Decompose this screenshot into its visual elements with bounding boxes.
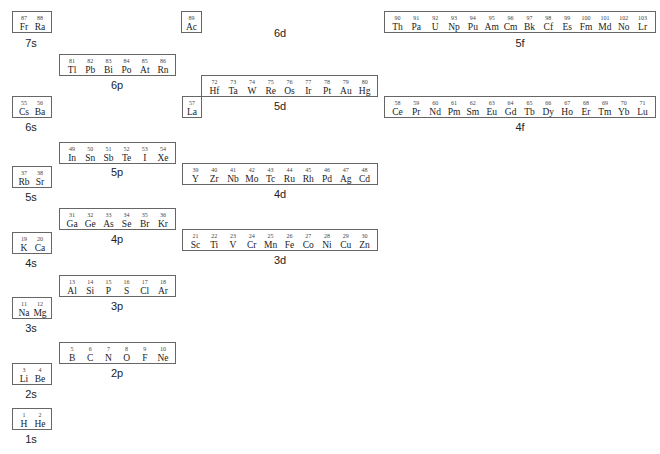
element-cell: 88Ra — [32, 12, 48, 32]
atomic-number: 13 — [69, 279, 75, 286]
atomic-number: 26 — [286, 233, 292, 240]
element-symbol: Rn — [157, 65, 168, 75]
element-symbol: Mn — [264, 240, 277, 250]
element-cell: 44Ru — [280, 164, 299, 184]
element-symbol: Nd — [429, 107, 441, 117]
element-symbol: Pt — [323, 86, 331, 96]
atomic-number: 92 — [432, 15, 438, 22]
element-cell: 98Cf — [539, 12, 558, 32]
element-cell: 53I — [136, 143, 154, 163]
block-4d: 39Y40Zr41Nb42Mo43Tc44Ru45Rh46Pd47Ag48Cd — [182, 163, 378, 185]
element-cell: 96Cm — [501, 12, 520, 32]
atomic-number: 77 — [305, 79, 311, 86]
element-cell: 2He — [32, 409, 48, 429]
element-cell: 49In — [63, 143, 81, 163]
atomic-number: 102 — [619, 15, 628, 22]
element-symbol: Fe — [285, 240, 295, 250]
block-5s: 37Rb38Sr — [12, 166, 52, 188]
element-symbol: U — [432, 22, 439, 32]
atomic-number: 11 — [21, 301, 27, 308]
element-symbol: Th — [392, 22, 403, 32]
block-4f: 58Ce59Pr60Nd61Pm62Sm63Eu64Gd65Tb66Dy67Ho… — [384, 96, 656, 118]
element-cell: 83Bi — [99, 55, 117, 75]
element-symbol: B — [69, 353, 75, 363]
element-cell: 18Ar — [154, 276, 172, 296]
subshell-label-6d: 6d — [274, 27, 286, 39]
element-cell: 66Dy — [539, 97, 558, 117]
element-cell: 86Rn — [154, 55, 172, 75]
block-4p: 31Ga32Ge33As34Se35Br36Kr — [59, 208, 176, 230]
element-symbol: Dy — [542, 107, 554, 117]
atomic-number: 15 — [105, 279, 111, 286]
atomic-number: 88 — [37, 15, 43, 22]
element-symbol: Ge — [85, 219, 96, 229]
element-symbol: Pa — [412, 22, 422, 32]
element-symbol: No — [618, 22, 630, 32]
block-5d: 72Hf73Ta74W75Re76Os77Ir78Pt79Au80Hg — [201, 75, 378, 97]
atomic-number: 17 — [142, 279, 148, 286]
atomic-number: 99 — [564, 15, 570, 22]
element-cell: 20Ca — [32, 233, 48, 253]
atomic-number: 37 — [21, 170, 27, 177]
atomic-number: 103 — [638, 15, 647, 22]
element-symbol: Br — [140, 219, 150, 229]
atomic-number: 16 — [124, 279, 130, 286]
element-cell: 97Bk — [520, 12, 539, 32]
element-symbol: Ru — [284, 174, 295, 184]
atomic-number: 66 — [545, 100, 551, 107]
element-symbol: Sn — [85, 153, 95, 163]
element-symbol: La — [187, 107, 197, 117]
atomic-number: 89 — [189, 15, 195, 22]
atomic-number: 101 — [600, 15, 609, 22]
element-cell: 69Tm — [595, 97, 614, 117]
element-symbol: O — [123, 353, 130, 363]
block-1s: 1H2He — [12, 408, 52, 430]
subshell-label-4f: 4f — [515, 121, 524, 133]
atomic-number: 48 — [362, 167, 368, 174]
element-symbol: Os — [284, 86, 295, 96]
element-cell: 81Tl — [63, 55, 81, 75]
element-cell: 12Mg — [32, 298, 48, 318]
element-symbol: S — [124, 286, 129, 296]
element-cell: 15P — [99, 276, 117, 296]
atomic-number: 31 — [69, 212, 75, 219]
atomic-number: 32 — [87, 212, 93, 219]
atomic-number: 52 — [124, 146, 130, 153]
block-2s: 3Li4Be — [12, 363, 52, 385]
element-symbol: Fr — [20, 22, 28, 32]
element-cell: 30Zn — [355, 230, 374, 250]
element-cell: 90Th — [388, 12, 407, 32]
element-cell: 6C — [81, 343, 99, 363]
element-symbol: Pu — [468, 22, 478, 32]
element-symbol: Rb — [18, 177, 29, 187]
element-cell: 95Am — [482, 12, 501, 32]
element-symbol: Cs — [19, 107, 29, 117]
element-cell: 31Ga — [63, 209, 81, 229]
atomic-number: 79 — [343, 79, 349, 86]
element-symbol: Bi — [104, 65, 113, 75]
element-cell: 62Sm — [463, 97, 482, 117]
block-6s: 55Cs56Ba — [12, 96, 52, 118]
element-symbol: Ta — [228, 86, 237, 96]
atomic-number: 23 — [230, 233, 236, 240]
element-symbol: Te — [122, 153, 131, 163]
element-symbol: Al — [67, 286, 77, 296]
element-symbol: Hf — [209, 86, 219, 96]
element-cell: 55Cs — [16, 97, 32, 117]
atomic-number: 69 — [602, 100, 608, 107]
atomic-number: 78 — [324, 79, 330, 86]
element-symbol: Ca — [35, 243, 46, 253]
element-cell: 19K — [16, 233, 32, 253]
element-symbol: Pm — [448, 107, 461, 117]
element-cell: 47Ag — [336, 164, 355, 184]
atomic-number: 28 — [324, 233, 330, 240]
atomic-number: 54 — [160, 146, 166, 153]
element-cell: 79Au — [336, 76, 355, 96]
block-5p: 49In50Sn51Sb52Te53I54Xe — [59, 142, 176, 164]
atomic-number: 91 — [413, 15, 419, 22]
element-cell: 71Lu — [633, 97, 652, 117]
element-symbol: Au — [340, 86, 352, 96]
element-symbol: C — [87, 353, 93, 363]
element-cell: 27Co — [299, 230, 318, 250]
element-symbol: P — [106, 286, 111, 296]
